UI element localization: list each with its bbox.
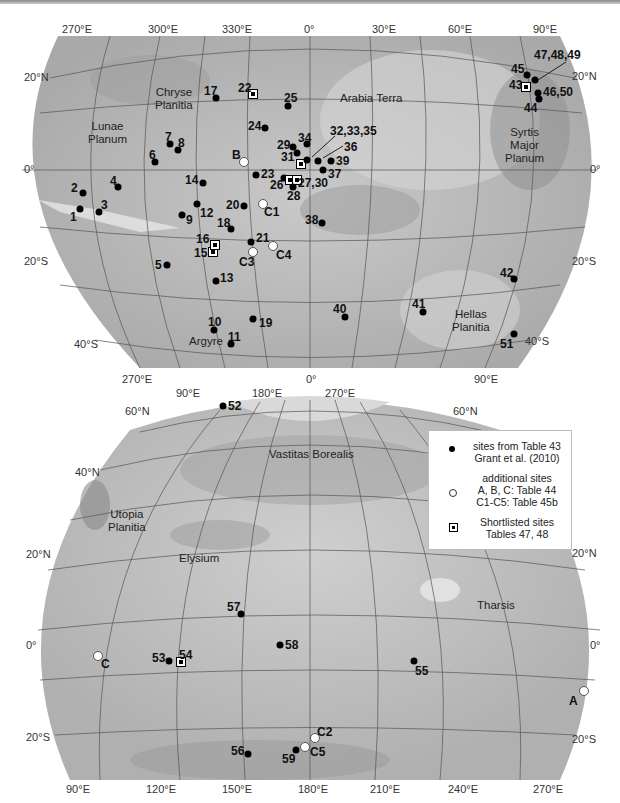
site-marker[interactable] bbox=[248, 239, 255, 246]
region-elysium: Elysium bbox=[179, 552, 219, 565]
site-label: 3 bbox=[101, 198, 108, 212]
site-marker[interactable] bbox=[77, 206, 84, 213]
site-marker[interactable] bbox=[320, 167, 327, 174]
site-label: 46,50 bbox=[543, 85, 573, 99]
site-label: 42 bbox=[500, 266, 513, 280]
site-marker[interactable] bbox=[319, 220, 326, 227]
site-marker[interactable] bbox=[304, 157, 311, 164]
bottom-lon-tick: 270°E bbox=[533, 783, 563, 795]
site-marker[interactable] bbox=[294, 150, 301, 157]
site-marker[interactable] bbox=[524, 72, 531, 79]
bottom-lon-tick: 210°E bbox=[370, 783, 400, 795]
site-label: 17 bbox=[204, 84, 217, 98]
site-label: 56 bbox=[231, 744, 244, 758]
bottom-lat-tick: 40°N bbox=[75, 466, 100, 478]
site-label: 37 bbox=[328, 167, 341, 181]
bottom-lat-tick: 20°S bbox=[26, 731, 50, 743]
bottom-lon-tick: 90°E bbox=[176, 387, 200, 399]
top-bottom-tick: 0° bbox=[306, 373, 317, 385]
site-label: 8 bbox=[178, 136, 185, 150]
site-label: 22 bbox=[238, 81, 251, 95]
top-lat-tick: 20°S bbox=[572, 255, 596, 267]
bottom-lon-tick: 120°E bbox=[146, 783, 176, 795]
site-label: B bbox=[232, 148, 241, 162]
site-marker[interactable] bbox=[277, 642, 284, 649]
bottom-lat-tick: 0° bbox=[26, 639, 37, 651]
bottom-lon-tick: 240°E bbox=[448, 783, 478, 795]
site-label: 43 bbox=[509, 78, 522, 92]
additional-site-marker[interactable] bbox=[300, 742, 310, 752]
site-label: 10 bbox=[208, 315, 221, 329]
site-label: 19 bbox=[259, 316, 272, 330]
additional-site-marker[interactable] bbox=[579, 686, 589, 696]
top-lon-tick: 270°E bbox=[62, 23, 92, 35]
site-label: 27,30 bbox=[298, 176, 328, 190]
site-marker[interactable] bbox=[241, 203, 248, 210]
site-marker[interactable] bbox=[179, 212, 186, 219]
region-syrtis-major: Syrtis Major Planum bbox=[505, 126, 544, 165]
site-marker[interactable] bbox=[200, 180, 207, 187]
site-marker[interactable] bbox=[328, 158, 335, 165]
top-lat-tick: 20°N bbox=[572, 70, 597, 82]
top-lon-tick: 60°E bbox=[448, 23, 472, 35]
top-lon-tick: 90°E bbox=[533, 23, 557, 35]
site-label: 15 bbox=[194, 246, 207, 260]
site-label: 58 bbox=[285, 638, 298, 652]
site-marker[interactable] bbox=[166, 658, 173, 665]
bottom-lat-tick: 20°N bbox=[26, 548, 51, 560]
site-label: 31 bbox=[281, 150, 294, 164]
site-marker[interactable] bbox=[245, 751, 252, 758]
site-label: C4 bbox=[276, 248, 291, 262]
site-label: C5 bbox=[310, 745, 325, 759]
region-argyre: Argyre bbox=[189, 335, 223, 348]
region-tharsis: Tharsis bbox=[477, 599, 515, 612]
site-marker[interactable] bbox=[315, 158, 322, 165]
site-label: 9 bbox=[186, 213, 193, 227]
top-lat-tick: 0° bbox=[590, 163, 601, 175]
site-label: 32,33,35 bbox=[330, 124, 377, 138]
site-marker[interactable] bbox=[164, 262, 171, 269]
top-lon-tick: 330°E bbox=[222, 23, 252, 35]
site-label: C bbox=[101, 657, 110, 671]
boxed-dot-icon bbox=[449, 523, 458, 532]
site-marker[interactable] bbox=[220, 403, 227, 410]
site-label: C3 bbox=[239, 255, 254, 269]
site-label: 4 bbox=[110, 174, 117, 188]
site-marker[interactable] bbox=[253, 172, 260, 179]
bottom-lon-tick: 270°E bbox=[325, 387, 355, 399]
shortlisted-site-marker[interactable] bbox=[210, 240, 220, 250]
site-label: 1 bbox=[70, 210, 77, 224]
site-label: 55 bbox=[415, 664, 428, 678]
region-arabia-terra: Arabia Terra bbox=[340, 92, 402, 105]
site-label: 24 bbox=[248, 119, 261, 133]
site-label: 44 bbox=[524, 101, 537, 115]
site-label: 52 bbox=[228, 399, 241, 413]
site-marker[interactable] bbox=[535, 90, 542, 97]
site-label: C2 bbox=[317, 725, 332, 739]
top-lat-tick: 40°S bbox=[74, 338, 98, 350]
site-label: 41 bbox=[412, 297, 425, 311]
bottom-lon-tick: 90°E bbox=[66, 783, 90, 795]
site-label: 5 bbox=[155, 258, 162, 272]
top-bottom-tick: 90°E bbox=[474, 373, 498, 385]
site-marker[interactable] bbox=[250, 316, 257, 323]
site-marker[interactable] bbox=[532, 77, 539, 84]
bottom-lat-tick: 60°N bbox=[125, 405, 150, 417]
top-lat-tick: 0° bbox=[24, 163, 35, 175]
map-legend: sites from Table 43 Grant et al. (2010) … bbox=[428, 430, 572, 550]
site-marker[interactable] bbox=[262, 125, 269, 132]
site-marker[interactable] bbox=[80, 190, 87, 197]
site-label: 6 bbox=[149, 148, 156, 162]
site-marker[interactable] bbox=[213, 278, 220, 285]
shortlisted-site-marker[interactable] bbox=[521, 82, 531, 92]
site-label: 16 bbox=[196, 232, 209, 246]
top-bottom-tick: 270°E bbox=[122, 373, 152, 385]
bottom-lat-tick: 20°S bbox=[572, 733, 596, 745]
region-lunae-planum: Lunae Planum bbox=[88, 120, 127, 146]
top-lat-tick: 40°S bbox=[525, 335, 549, 347]
region-chryse-planitia: Chryse Planitia bbox=[155, 86, 193, 112]
top-lon-tick: 300°E bbox=[148, 23, 178, 35]
site-label: 59 bbox=[282, 752, 295, 766]
site-label: 40 bbox=[333, 302, 346, 316]
site-label: 54 bbox=[179, 648, 192, 662]
